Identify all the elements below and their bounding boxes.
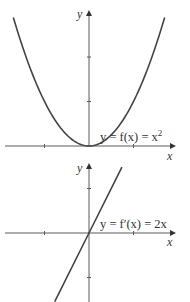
- derivative-figure: y x y = f(x) = x2 y x y = f′(x) = 2x: [0, 0, 190, 302]
- plot-fprime: y x y = f′(x) = 2x: [5, 161, 173, 302]
- equation-text: y = f(x) = x: [100, 130, 159, 144]
- plot-f: y x y = f(x) = x2: [5, 7, 173, 163]
- x-axis-label: x: [166, 149, 173, 163]
- x-axis-label: x: [166, 235, 173, 249]
- equation-exponent: 2: [158, 128, 163, 138]
- y-axis-label: y: [76, 7, 83, 21]
- equation-label: y = f′(x) = 2x: [100, 217, 168, 231]
- derivative-line: [55, 167, 122, 301]
- equation-label: y = f(x) = x2: [100, 128, 162, 144]
- y-axis-label: y: [76, 161, 83, 175]
